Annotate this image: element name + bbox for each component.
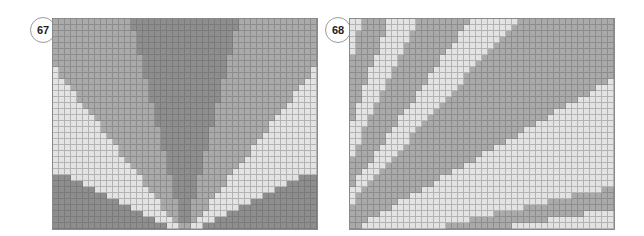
grid-cell xyxy=(311,223,317,229)
pixel-grid-68 xyxy=(349,18,615,230)
figure-number-badge: 68 xyxy=(325,17,351,43)
grid-cell xyxy=(608,223,614,229)
pixel-grid-67 xyxy=(52,18,318,230)
